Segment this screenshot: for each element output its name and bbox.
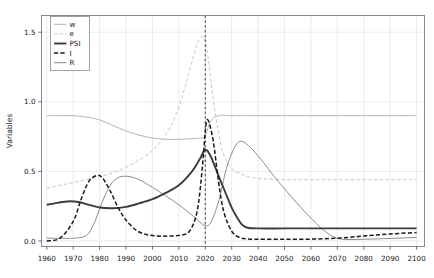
- x-tick-label: 2030: [223, 254, 242, 263]
- legend-label-e: e: [70, 29, 75, 38]
- line-chart: 1960197019801990200020102020203020402050…: [0, 0, 434, 278]
- x-tick-label: 2080: [355, 254, 374, 263]
- x-tick-label: 2070: [328, 254, 347, 263]
- y-axis-title: Variables: [5, 114, 14, 149]
- y-axis-ticks: 0.00.51.01.5: [24, 28, 41, 246]
- x-tick-label: 2060: [302, 254, 321, 263]
- x-tick-label: 2000: [143, 254, 162, 263]
- legend-label-w: w: [70, 20, 76, 29]
- x-tick-label: 1970: [64, 254, 83, 263]
- legend-label-PSI: PSI: [70, 39, 81, 48]
- y-axis-label: Variables: [5, 114, 14, 149]
- x-tick-label: 2010: [170, 254, 189, 263]
- x-tick-label: 2020: [196, 254, 215, 263]
- x-tick-label: 1990: [117, 254, 136, 263]
- x-tick-label: 1980: [90, 254, 109, 263]
- x-tick-label: 2100: [407, 254, 426, 263]
- x-axis-ticks: 1960197019801990200020102020203020402050…: [38, 247, 427, 264]
- chart-figure: 1960197019801990200020102020203020402050…: [0, 0, 434, 278]
- legend-label-R: R: [70, 58, 75, 67]
- x-tick-label: 2040: [249, 254, 268, 263]
- chart-legend: wePSIIR: [51, 17, 90, 71]
- x-tick-label: 2090: [381, 254, 400, 263]
- y-tick-label: 1.5: [24, 28, 35, 37]
- y-tick-label: 0.0: [24, 237, 36, 246]
- x-tick-label: 1960: [38, 254, 57, 263]
- x-tick-label: 2050: [275, 254, 294, 263]
- y-tick-label: 0.5: [24, 167, 35, 176]
- y-tick-label: 1.0: [24, 97, 36, 106]
- legend-label-I: I: [70, 49, 72, 58]
